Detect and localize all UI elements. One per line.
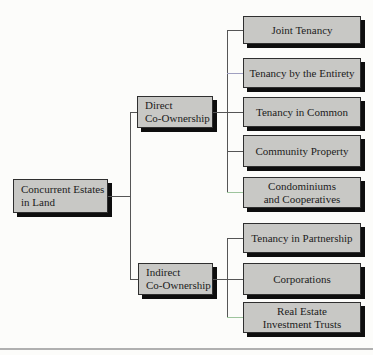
node-condominiums-and-cooperatives: Condominiums and Cooperatives bbox=[243, 177, 361, 208]
connector-reit bbox=[227, 317, 243, 318]
connector-tenancy-entirety bbox=[227, 73, 243, 74]
node-tenancy-in-partnership: Tenancy in Partnership bbox=[243, 223, 361, 253]
connector-indirect-to-corporations bbox=[213, 279, 243, 280]
node-label: Direct bbox=[145, 99, 172, 112]
connector-direct-to-common bbox=[213, 112, 243, 113]
connector-direct-left bbox=[130, 112, 137, 113]
node-joint-tenancy: Joint Tenancy bbox=[243, 16, 361, 44]
node-label: Concurrent Estates bbox=[21, 183, 104, 196]
node-label: Co-Ownership bbox=[145, 112, 210, 125]
node-label: in Land bbox=[21, 196, 55, 209]
connector-bottom-trunk bbox=[227, 238, 228, 318]
connector-left-trunk bbox=[130, 112, 131, 280]
node-label: Community Property bbox=[255, 145, 348, 158]
connector-community-property bbox=[227, 151, 243, 152]
node-label: Joint Tenancy bbox=[271, 24, 332, 37]
connector-condominiums bbox=[227, 192, 243, 193]
connector-indirect-left bbox=[130, 279, 138, 280]
org-chart-diagram: Concurrent Estates in Land Direct Co-Own… bbox=[0, 0, 373, 355]
connector-top-trunk bbox=[227, 30, 228, 193]
node-concurrent-estates-in-land: Concurrent Estates in Land bbox=[13, 179, 108, 213]
node-community-property: Community Property bbox=[243, 135, 361, 167]
node-label: Tenancy in Common bbox=[256, 106, 348, 119]
node-label: Condominiums bbox=[268, 180, 336, 193]
node-corporations: Corporations bbox=[243, 263, 361, 295]
node-indirect-co-ownership: Indirect Co-Ownership bbox=[138, 263, 213, 295]
node-label: Indirect bbox=[146, 266, 180, 279]
node-label: Tenancy by the Entirety bbox=[249, 67, 354, 80]
node-tenancy-in-common: Tenancy in Common bbox=[243, 97, 361, 127]
node-label: Investment Trusts bbox=[263, 318, 342, 331]
connector-tenancy-partnership bbox=[227, 238, 243, 239]
node-label: Tenancy in Partnership bbox=[251, 232, 352, 245]
node-label: Co-Ownership bbox=[146, 279, 211, 292]
bottom-rule-divider bbox=[0, 348, 373, 350]
node-direct-co-ownership: Direct Co-Ownership bbox=[137, 96, 213, 128]
connector-joint-tenancy bbox=[227, 30, 243, 31]
node-label: and Cooperatives bbox=[264, 193, 341, 206]
node-real-estate-investment-trusts: Real Estate Investment Trusts bbox=[243, 302, 361, 333]
node-label: Corporations bbox=[273, 273, 330, 286]
node-label: Real Estate bbox=[277, 305, 327, 318]
node-tenancy-by-the-entirety: Tenancy by the Entirety bbox=[243, 58, 361, 88]
connector-root-horizontal bbox=[108, 196, 131, 197]
